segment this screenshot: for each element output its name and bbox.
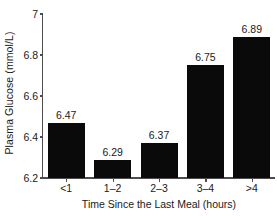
bar[interactable]: [48, 123, 85, 178]
x-tick-label: <1: [41, 183, 91, 194]
bar[interactable]: [233, 37, 270, 178]
x-tick-label: 3–4: [180, 183, 230, 194]
bar-value-label: 6.37: [134, 130, 184, 141]
x-tick-label: >4: [227, 183, 277, 194]
y-tick-label: 6.4: [0, 132, 38, 143]
plot-area: 6.476.296.376.756.89: [43, 14, 275, 178]
bar[interactable]: [94, 160, 131, 178]
bar-chart-figure: Plasma Glucose (mmol/L) 6.26.46.66.87 6.…: [0, 0, 277, 216]
x-tick-mark: [252, 178, 253, 182]
bar[interactable]: [187, 65, 224, 178]
x-tick-label: 1–2: [88, 183, 138, 194]
x-tick-mark: [113, 178, 114, 182]
bar-value-label: 6.89: [227, 24, 277, 35]
x-tick-mark: [66, 178, 67, 182]
bar-value-label: 6.75: [180, 52, 230, 63]
bar-value-label: 6.29: [88, 147, 138, 158]
x-tick-label: 2–3: [134, 183, 184, 194]
x-axis-title: Time Since the Last Meal (hours): [43, 198, 275, 210]
y-tick-label: 6.2: [0, 173, 38, 184]
bar-value-label: 6.47: [41, 110, 91, 121]
x-tick-mark: [205, 178, 206, 182]
x-tick-mark: [159, 178, 160, 182]
y-tick-label: 6.8: [0, 50, 38, 61]
bar[interactable]: [141, 143, 178, 178]
y-tick-label: 6.6: [0, 91, 38, 102]
y-tick-label: 7: [0, 9, 38, 20]
